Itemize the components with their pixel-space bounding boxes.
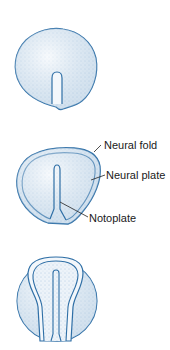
label-neural-plate: Neural plate	[106, 169, 165, 181]
stage-3-embryo	[17, 257, 97, 341]
label-neural-fold: Neural fold	[104, 139, 157, 151]
stage-1-embryo	[15, 28, 97, 109]
primitive-streak	[52, 72, 62, 104]
label-notoplate: Notoplate	[89, 212, 136, 224]
